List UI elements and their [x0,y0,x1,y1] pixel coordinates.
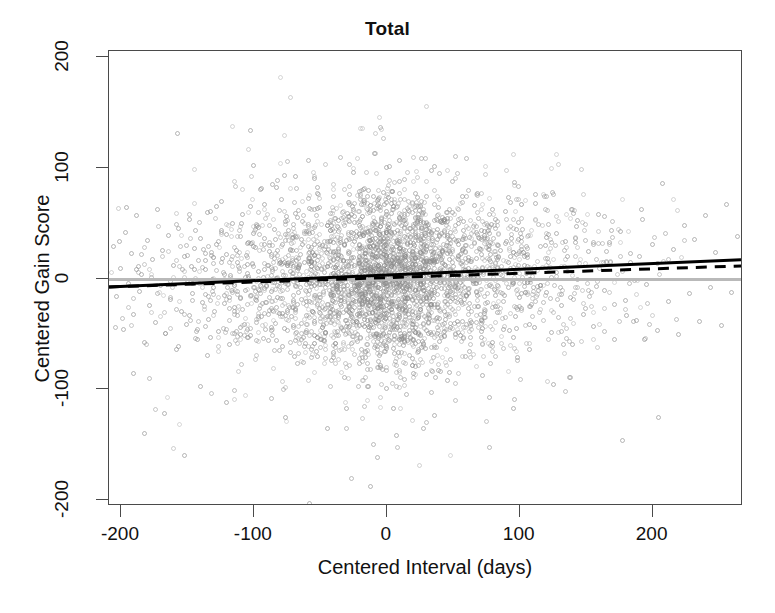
y-axis-tick-label: -100 [51,358,73,418]
x-axis-label: Centered Interval (days) [108,556,742,579]
x-axis-tick-label: -200 [80,523,160,545]
regression-line-dashed [109,266,741,287]
x-axis-tick-label: 200 [612,523,692,545]
y-axis-tick-label: 100 [51,137,73,197]
chart-title: Total [0,18,775,40]
y-axis-tick [96,499,108,500]
x-axis-tick [253,505,254,517]
x-axis-tick-label: 0 [346,523,426,545]
y-axis-tick [96,56,108,57]
y-axis-tick [96,167,108,168]
y-axis-tick [96,278,108,279]
x-axis-tick [120,505,121,517]
x-axis-tick-label: -100 [213,523,293,545]
y-axis-tick-label: -200 [51,469,73,529]
x-axis-tick [519,505,520,517]
y-axis-tick-label: 0 [51,248,73,308]
y-axis-tick [96,388,108,389]
regression-lines-layer [109,51,741,504]
plot-area [108,50,742,505]
x-axis-tick [652,505,653,517]
y-axis-tick-label: 200 [51,26,73,86]
chart-canvas: Total Centered Gain Score Centered Inter… [0,0,775,613]
x-axis-tick [386,505,387,517]
x-axis-tick-label: 100 [479,523,559,545]
